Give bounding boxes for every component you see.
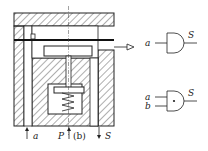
symbol1-output-label: S (188, 30, 194, 40)
valve-diagram: a P (b) S a S a b S (0, 0, 208, 151)
port-p-arrow-icon (67, 127, 71, 139)
piston-plate (44, 46, 92, 56)
exhaust-arrow-icon (114, 44, 134, 50)
port-a-label: a (33, 131, 38, 141)
port-a-arrow-icon (25, 127, 29, 139)
lower-plate (54, 87, 84, 93)
small-stop (31, 34, 35, 39)
port-p-label: P (57, 131, 65, 141)
symbol2-input-b-label: b (145, 101, 151, 111)
caption-label: (b) (73, 131, 86, 141)
valve-body (14, 13, 114, 126)
symbol1-input-label: a (145, 38, 150, 48)
port-s-arrow-icon (97, 127, 101, 139)
port-s-label: S (105, 131, 111, 141)
symbol2-output-label: S (188, 88, 194, 98)
